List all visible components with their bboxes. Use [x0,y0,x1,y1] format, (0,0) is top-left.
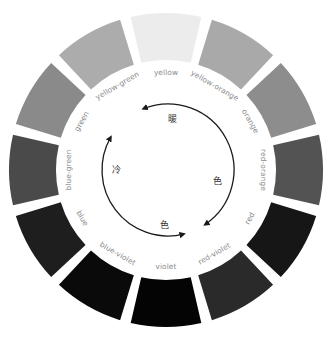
cool-arrow [102,137,184,236]
segment-violet [131,277,202,327]
label-green: green [72,109,91,133]
segment-red [246,202,316,277]
segment-blue-green [9,135,59,206]
segment-yellow [131,13,202,63]
color-wheel: yellowyellow-orangeorangered-orangeredre… [0,0,331,337]
label-red: red [243,210,257,225]
label-yellow: yellow [154,68,178,77]
warm-cool-arrows: 暖 色 冷 色 [102,104,234,236]
segment-red-orange [273,135,323,206]
label-blue: blue [74,209,90,228]
color-labels: yellowyellow-orangeorangered-orangeredre… [64,68,268,271]
label-red-orange: red-orange [259,149,268,191]
warm-arrow [143,104,234,225]
warm-label-char-1: 暖 [168,113,177,124]
label-blue-green: blue-green [64,149,73,190]
color-segments [9,13,323,327]
cool-label-char-2: 色 [160,219,169,230]
cool-label-char-1: 冷 [112,164,121,175]
warm-label-char-2: 色 [213,175,222,186]
label-violet: violet [155,262,176,271]
label-orange: orange [240,107,261,135]
